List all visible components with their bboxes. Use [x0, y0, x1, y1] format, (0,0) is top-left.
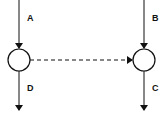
- label-a: A: [27, 13, 34, 23]
- right-node-circle: [133, 49, 155, 71]
- left-node-circle: [8, 49, 30, 71]
- label-c: C: [152, 83, 159, 93]
- flow-diagram: A D B C: [0, 0, 168, 115]
- label-d: D: [27, 83, 34, 93]
- label-b: B: [152, 13, 159, 23]
